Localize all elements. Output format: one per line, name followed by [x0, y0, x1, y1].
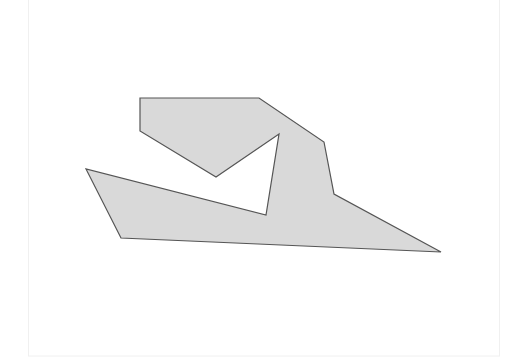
diagram-canvas [0, 0, 510, 364]
irregular-polygon [86, 98, 441, 252]
